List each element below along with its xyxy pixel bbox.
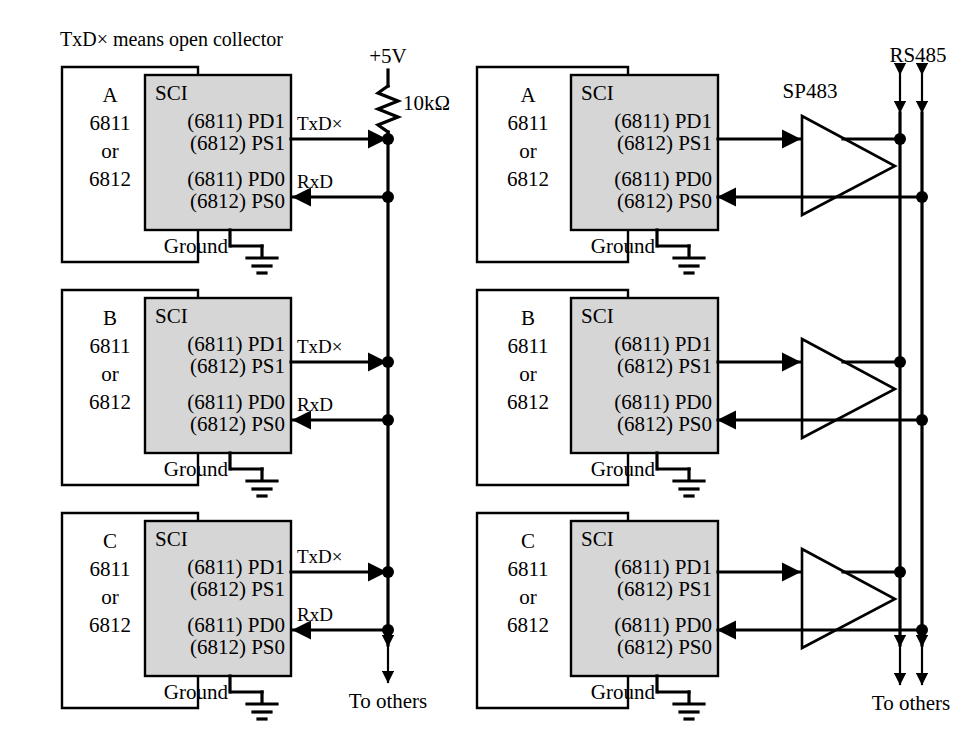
rx-port-line2: (6812) PS0 <box>617 635 712 659</box>
rx-port-line1: (6811) PD0 <box>187 167 285 191</box>
rxd-signal-label: RxD <box>297 604 333 625</box>
figure-root: TxD× means open collector +5V 10kΩ To ot… <box>0 0 973 744</box>
mcu-part-line1: 6811 <box>89 557 130 581</box>
mcu-part-line1: 6811 <box>507 334 548 358</box>
sci-module-label: SCI <box>155 304 188 328</box>
txd-bus-junction-dot <box>382 356 394 368</box>
rxd-signal-label: RxD <box>297 394 333 415</box>
tx-port-line2: (6812) PS1 <box>190 354 285 378</box>
resistor-value-label: 10kΩ <box>403 91 450 115</box>
mcu-id-label: B <box>521 306 535 330</box>
mcu-id-label: B <box>103 306 117 330</box>
tx-port-line2: (6812) PS1 <box>190 577 285 601</box>
mcu-part-line1: 6811 <box>89 334 130 358</box>
mcu-part-line3: 6812 <box>507 167 549 191</box>
busB-junction-dot <box>916 624 928 636</box>
mcu-part-line3: 6812 <box>507 613 549 637</box>
rxd-signal-label: RxD <box>297 171 333 192</box>
ground-label: Ground <box>164 680 229 704</box>
txd-signal-label: TxD× <box>297 546 343 567</box>
tx-port-line1: (6811) PD1 <box>187 555 285 579</box>
tx-port-line2: (6812) PS1 <box>617 577 712 601</box>
rs485-bus-label: RS485 <box>889 43 946 67</box>
rxd-bus-junction-dot <box>382 191 394 203</box>
rx-port-line1: (6811) PD0 <box>187 613 285 637</box>
mcu-part-line1: 6811 <box>89 111 130 135</box>
sp483-driver-label: SP483 <box>783 79 838 103</box>
tx-port-line2: (6812) PS1 <box>617 354 712 378</box>
rx-port-line2: (6812) PS0 <box>617 412 712 436</box>
ground-label: Ground <box>591 234 656 258</box>
mcu-id-label: A <box>520 83 536 107</box>
rx-port-line2: (6812) PS0 <box>190 189 285 213</box>
mcu-part-line2: or <box>101 585 119 609</box>
left-bus-to-others-label: To others <box>349 689 427 713</box>
mcu-part-line1: 6811 <box>507 557 548 581</box>
mcu-part-line3: 6812 <box>89 613 131 637</box>
busB-junction-dot <box>916 191 928 203</box>
sci-module-label: SCI <box>155 81 188 105</box>
mcu-part-line3: 6812 <box>89 390 131 414</box>
txd-signal-label: TxD× <box>297 336 343 357</box>
busA-junction-dot <box>894 566 906 578</box>
right-bus-to-others-label: To others <box>872 691 950 715</box>
txd-bus-junction-dot <box>382 566 394 578</box>
mcu-part-line3: 6812 <box>507 390 549 414</box>
tx-port-line2: (6812) PS1 <box>617 131 712 155</box>
ground-label: Ground <box>164 457 229 481</box>
ground-label: Ground <box>591 457 656 481</box>
rx-port-line1: (6811) PD0 <box>614 167 712 191</box>
sci-module-label: SCI <box>581 527 614 551</box>
sci-module-label: SCI <box>155 527 188 551</box>
mcu-part-line2: or <box>519 139 537 163</box>
circuit-diagram: TxD× means open collector +5V 10kΩ To ot… <box>0 0 973 744</box>
rx-port-line1: (6811) PD0 <box>614 390 712 414</box>
rx-port-line1: (6811) PD0 <box>187 390 285 414</box>
rx-port-line2: (6812) PS0 <box>617 189 712 213</box>
supply-voltage-label: +5V <box>369 44 407 68</box>
rx-port-line1: (6811) PD0 <box>614 613 712 637</box>
tx-port-line1: (6811) PD1 <box>614 332 712 356</box>
open-collector-caption: TxD× means open collector <box>60 28 283 51</box>
rx-port-line2: (6812) PS0 <box>190 412 285 436</box>
ground-label: Ground <box>164 234 229 258</box>
tx-port-line1: (6811) PD1 <box>187 109 285 133</box>
tx-port-line1: (6811) PD1 <box>187 332 285 356</box>
sci-module-label: SCI <box>581 304 614 328</box>
mcu-id-label: C <box>521 529 535 553</box>
txd-signal-label: TxD× <box>297 113 343 134</box>
mcu-part-line1: 6811 <box>507 111 548 135</box>
mcu-part-line2: or <box>519 362 537 386</box>
rx-port-line2: (6812) PS0 <box>190 635 285 659</box>
tx-port-line1: (6811) PD1 <box>614 555 712 579</box>
mcu-part-line2: or <box>519 585 537 609</box>
busA-junction-dot <box>894 356 906 368</box>
rxd-bus-junction-dot <box>382 624 394 636</box>
tx-port-line2: (6812) PS1 <box>190 131 285 155</box>
mcu-id-label: A <box>102 83 118 107</box>
mcu-part-line2: or <box>101 139 119 163</box>
mcu-id-label: C <box>103 529 117 553</box>
rxd-bus-junction-dot <box>382 414 394 426</box>
ground-label: Ground <box>591 680 656 704</box>
tx-port-line1: (6811) PD1 <box>614 109 712 133</box>
busB-junction-dot <box>916 414 928 426</box>
busA-junction-dot <box>894 133 906 145</box>
txd-bus-junction-dot <box>382 133 394 145</box>
mcu-part-line3: 6812 <box>89 167 131 191</box>
mcu-part-line2: or <box>101 362 119 386</box>
sci-module-label: SCI <box>581 81 614 105</box>
